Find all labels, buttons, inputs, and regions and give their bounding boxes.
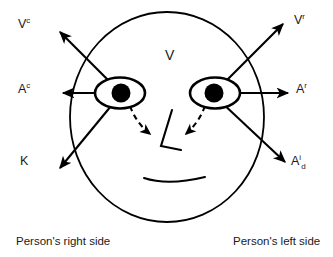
label-ar-sup: r [304, 81, 307, 90]
label-kinesthetic: K [20, 155, 28, 168]
person-left-pupil [205, 84, 224, 103]
label-auditory-constructed: Ac [18, 83, 30, 96]
label-visual-remembered: Vr [294, 14, 305, 27]
label-auditory-digital: Aid [291, 155, 306, 168]
caption-persons-left-side: Person's left side [233, 236, 320, 248]
face-and-arrows-graphic [0, 0, 333, 257]
label-v-center-base: V [165, 47, 174, 63]
eye-accessing-cues-diagram: Vc Vr Ac Ar K Aid V Person's right side … [0, 0, 333, 257]
face-outline [70, 12, 264, 222]
label-vr-sup: r [302, 12, 305, 21]
caption-persons-right-side: Person's right side [16, 236, 110, 248]
label-k-base: K [20, 154, 28, 168]
label-ac-sup: c [26, 81, 30, 90]
label-vc-sup: c [26, 16, 30, 25]
label-ad-sup: i [299, 153, 301, 162]
label-visual-center: V [165, 48, 174, 62]
label-auditory-remembered: Ar [296, 83, 307, 96]
label-visual-constructed: Vc [18, 18, 30, 31]
label-ad-sub: d [301, 162, 305, 171]
person-right-pupil [112, 84, 131, 103]
